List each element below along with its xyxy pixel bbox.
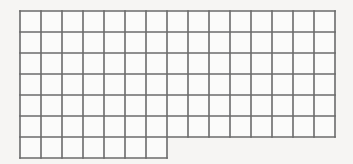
grid-cell (230, 32, 251, 53)
grid-cell (314, 53, 335, 74)
grid-cell (125, 32, 146, 53)
grid-cell (146, 11, 167, 32)
grid-cell (188, 53, 209, 74)
grid-cell (125, 74, 146, 95)
grid-cell (41, 11, 62, 32)
grid-cell (167, 116, 188, 137)
grid-cell (209, 32, 230, 53)
grid-cell (41, 137, 62, 158)
grid-cell (62, 116, 83, 137)
grid-cell (125, 53, 146, 74)
grid-cell (41, 53, 62, 74)
grid-cell (146, 137, 167, 158)
grid-cell (272, 116, 293, 137)
grid-cell (251, 11, 272, 32)
grid-cell (188, 11, 209, 32)
grid-cell (146, 116, 167, 137)
grid-cell (251, 53, 272, 74)
grid-cell (146, 74, 167, 95)
grid-cell (20, 95, 41, 116)
grid-cell (83, 11, 104, 32)
grid-cell (104, 137, 125, 158)
grid-cell (125, 116, 146, 137)
grid-figure (0, 0, 353, 164)
grid-cell (209, 11, 230, 32)
grid-cell (83, 53, 104, 74)
grid-cell (251, 32, 272, 53)
grid-cell (293, 95, 314, 116)
grid-cell (188, 116, 209, 137)
grid-cell (62, 74, 83, 95)
grid-cell (188, 74, 209, 95)
grid-cell (167, 11, 188, 32)
grid-cell (125, 137, 146, 158)
grid-cell (83, 74, 104, 95)
grid-cell (104, 11, 125, 32)
grid-cell (272, 95, 293, 116)
grid-cell (272, 32, 293, 53)
grid-cell (209, 53, 230, 74)
grid-cell (293, 116, 314, 137)
grid-cell (314, 95, 335, 116)
grid-cell (188, 95, 209, 116)
grid-cell (104, 32, 125, 53)
grid-cell (209, 116, 230, 137)
grid-cell (20, 137, 41, 158)
grid-cell (146, 32, 167, 53)
grid-cell (251, 74, 272, 95)
grid-cell (293, 11, 314, 32)
grid-cell (104, 116, 125, 137)
grid-cell (230, 11, 251, 32)
grid-cell (41, 95, 62, 116)
grid-cell (62, 137, 83, 158)
grid-cell (272, 11, 293, 32)
grid-cell (104, 53, 125, 74)
grid-cell (209, 95, 230, 116)
grid-cell (62, 95, 83, 116)
grid-cell (167, 53, 188, 74)
grid-cell (188, 32, 209, 53)
grid-cell (272, 74, 293, 95)
grid-cell (83, 137, 104, 158)
grid-cell (230, 74, 251, 95)
grid-cell (62, 11, 83, 32)
grid-cell (125, 95, 146, 116)
figure-canvas (0, 0, 353, 164)
grid-cell (314, 74, 335, 95)
grid-cell (293, 74, 314, 95)
grid-cell (209, 74, 230, 95)
grid-cell (314, 11, 335, 32)
grid-cell (62, 32, 83, 53)
grid-cell (251, 95, 272, 116)
grid-cell (230, 95, 251, 116)
grid-cells (20, 11, 335, 158)
grid-cell (83, 95, 104, 116)
grid-cell (230, 53, 251, 74)
grid-cell (104, 74, 125, 95)
grid-cell (41, 116, 62, 137)
grid-cell (167, 32, 188, 53)
grid-cell (293, 32, 314, 53)
grid-cell (167, 74, 188, 95)
grid-cell (62, 53, 83, 74)
grid-cell (20, 53, 41, 74)
grid-cell (314, 116, 335, 137)
grid-cell (230, 116, 251, 137)
grid-cell (20, 74, 41, 95)
grid-cell (167, 95, 188, 116)
grid-cell (314, 32, 335, 53)
grid-cell (41, 74, 62, 95)
grid-cell (293, 53, 314, 74)
grid-cell (146, 53, 167, 74)
grid-cell (125, 11, 146, 32)
grid-cell (272, 53, 293, 74)
grid-cell (20, 11, 41, 32)
grid-cell (251, 116, 272, 137)
grid-cell (104, 95, 125, 116)
grid-cell (41, 32, 62, 53)
grid-cell (20, 116, 41, 137)
grid-cell (83, 116, 104, 137)
grid-cell (83, 32, 104, 53)
grid-cell (20, 32, 41, 53)
grid-cell (146, 95, 167, 116)
